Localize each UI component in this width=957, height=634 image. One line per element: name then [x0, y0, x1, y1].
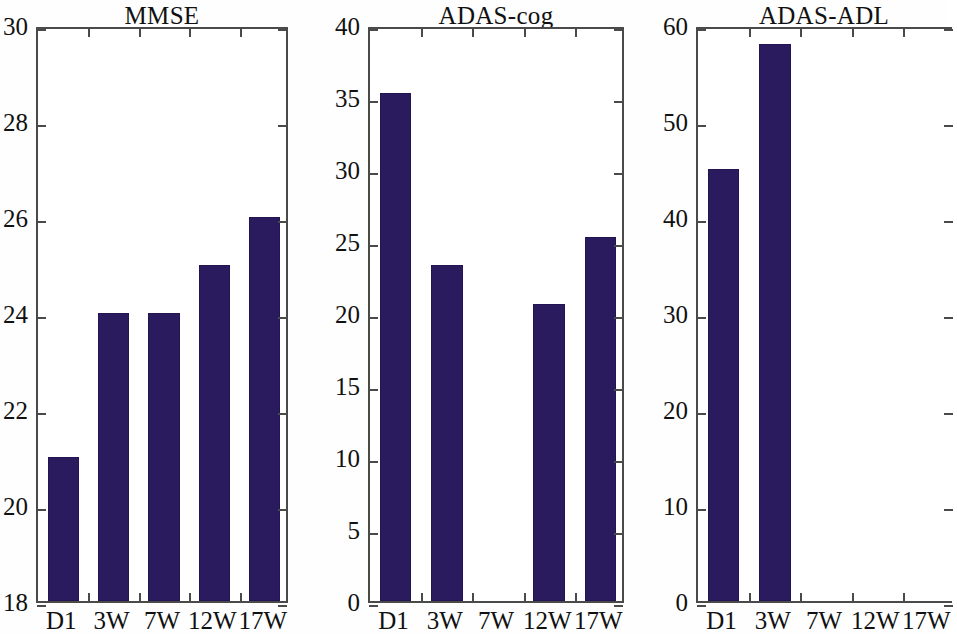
- x-tick-mark: [800, 593, 802, 602]
- y-tick-mark-right: [944, 509, 953, 511]
- y-tick-mark-right: [944, 221, 953, 223]
- y-tick-mark: [697, 29, 706, 31]
- y-tick-mark-right: [944, 413, 953, 415]
- y-tick-label: 60: [622, 13, 688, 41]
- plot-area: [698, 29, 952, 601]
- y-tick-mark: [697, 413, 706, 415]
- x-tick-mark: [852, 593, 854, 602]
- y-tick-label: 30: [622, 301, 688, 329]
- y-tick-mark-right: [944, 125, 953, 127]
- x-tick-mark: [749, 593, 751, 602]
- plot-axes: [696, 27, 952, 603]
- x-tick-mark: [903, 593, 905, 602]
- y-tick-mark: [697, 125, 706, 127]
- bar-D1: [708, 169, 740, 601]
- y-tick-label: 0: [622, 589, 688, 617]
- y-tick-mark: [697, 317, 706, 319]
- y-tick-label: 20: [622, 397, 688, 425]
- bar-3W: [759, 44, 791, 601]
- x-tick-mark-top: [800, 28, 802, 37]
- y-tick-label: 40: [622, 205, 688, 233]
- y-tick-label: 10: [622, 493, 688, 521]
- x-tick-label-17W: 17W: [886, 607, 957, 634]
- x-tick-mark-top: [852, 28, 854, 37]
- y-tick-mark: [697, 221, 706, 223]
- x-tick-mark-top: [903, 28, 905, 37]
- x-tick-mark-top: [749, 28, 751, 37]
- y-tick-label: 50: [622, 109, 688, 137]
- y-tick-mark: [697, 509, 706, 511]
- y-tick-mark-right: [944, 29, 953, 31]
- y-tick-mark-right: [944, 317, 953, 319]
